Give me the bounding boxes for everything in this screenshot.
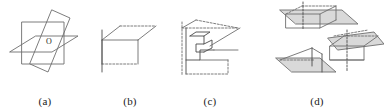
panel-d-drawing <box>250 0 384 92</box>
panel-b-caption: (b) <box>90 96 170 107</box>
panel-c-caption: (c) <box>170 96 250 107</box>
panel-a: O (a) <box>0 0 90 111</box>
slant-line-right <box>312 48 322 54</box>
panel-d: (d) <box>250 0 384 111</box>
panel-d-subfigure-left <box>276 48 336 72</box>
panel-c: (c) <box>170 0 250 111</box>
panel-b: (b) <box>90 0 170 111</box>
upper-plane-left <box>182 20 196 28</box>
panel-a-caption: (a) <box>0 96 90 107</box>
panel-d-caption: (d) <box>250 96 384 107</box>
figure-row: O (a) (b) <box>0 0 384 111</box>
plane-edge-right <box>138 26 156 40</box>
panel-d-subfigure-right <box>328 30 384 72</box>
panel-b-drawing <box>90 0 170 92</box>
lower-step <box>186 50 214 60</box>
plane-edge-left <box>102 26 120 40</box>
shaded-plane-top <box>280 10 358 24</box>
panel-c-drawing <box>170 0 250 92</box>
oblique-line <box>210 28 240 46</box>
origin-point-label: O <box>46 37 52 46</box>
panel-a-drawing: O <box>0 0 90 92</box>
plane-frontal <box>22 22 64 64</box>
stepped-fold-top <box>190 32 210 36</box>
panel-d-subfigure-top <box>280 2 358 30</box>
upper-plane-top <box>196 20 238 28</box>
